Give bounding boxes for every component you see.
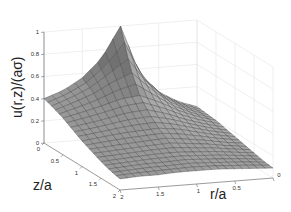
z-tick — [41, 54, 44, 55]
x-tick-label: 2 — [120, 194, 124, 200]
z-tick-label: 1 — [36, 29, 40, 35]
z-axis-title: u(r,z)/(aσ) — [9, 56, 25, 118]
z-tick — [41, 76, 44, 77]
y-tick-label: 0.5 — [51, 158, 60, 164]
x-tick — [120, 190, 121, 193]
x-tick — [158, 187, 159, 190]
y-axis-title: z/a — [33, 177, 52, 193]
y-tick-label: 1 — [75, 170, 79, 176]
x-tick-label: 1 — [197, 188, 201, 194]
y-tick — [61, 155, 63, 157]
z-tick — [41, 121, 44, 122]
z-tick-label: 0.8 — [31, 51, 40, 57]
y-tick — [99, 178, 101, 180]
x-tick-label: 1.5 — [156, 191, 165, 197]
y-tick-label: 0 — [37, 146, 41, 152]
x-tick — [197, 184, 198, 187]
x-tick-label: 0.5 — [233, 185, 242, 191]
y-tick — [118, 190, 120, 192]
z-tick-label: 0.2 — [31, 118, 40, 124]
x-axis-title: r/a — [210, 186, 227, 202]
z-tick — [41, 99, 44, 100]
x-tick — [235, 181, 236, 184]
x-tick — [273, 178, 274, 181]
y-tick-label: 1.5 — [89, 181, 98, 187]
y-tick — [80, 167, 82, 169]
y-tick-label: 2 — [113, 193, 117, 199]
z-tick-label: 0.4 — [31, 96, 40, 102]
x-tick-label: 0 — [277, 172, 281, 178]
surface-plot: 00.20.40.60.8100.511.5200.511.52 u(r,z)/… — [0, 0, 291, 212]
z-tick — [41, 32, 44, 33]
z-tick-label: 0.6 — [31, 73, 40, 79]
